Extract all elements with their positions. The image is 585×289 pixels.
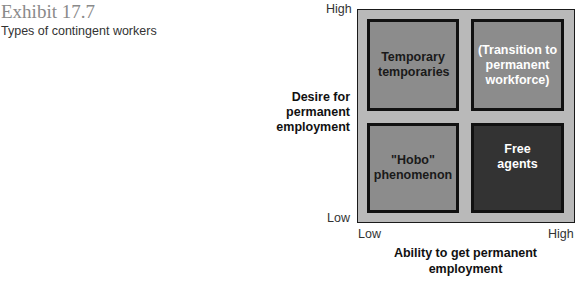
quadrant-label: Temporary temporaries <box>378 50 448 80</box>
exhibit-number: Exhibit 17.7 <box>1 1 95 23</box>
x-axis-label: Ability to get permanent employment <box>378 245 553 277</box>
x-axis-low-tick: Low <box>358 227 381 241</box>
y-axis-label: Desire for permanent employment <box>238 90 350 135</box>
quadrant-temporary-temporaries: Temporary temporaries <box>367 19 459 111</box>
y-axis-low-tick: Low <box>327 211 350 225</box>
x-axis-high-tick: High <box>548 227 574 241</box>
quadrant-label: "Hobo" phenomenon <box>373 153 453 183</box>
quadrant-grid: Temporary temporaries (Transition to per… <box>357 9 575 223</box>
quadrant-hobo-phenomenon: "Hobo" phenomenon <box>367 123 459 213</box>
quadrant-label: (Transition to permanent workforce) <box>478 43 558 88</box>
exhibit-title: Types of contingent workers <box>1 24 157 38</box>
y-axis-high-tick: High <box>326 2 352 16</box>
quadrant-transition-permanent: (Transition to permanent workforce) <box>471 19 564 111</box>
quadrant-free-agents: Free agents <box>471 123 564 213</box>
quadrant-label: Free agents <box>493 142 543 172</box>
